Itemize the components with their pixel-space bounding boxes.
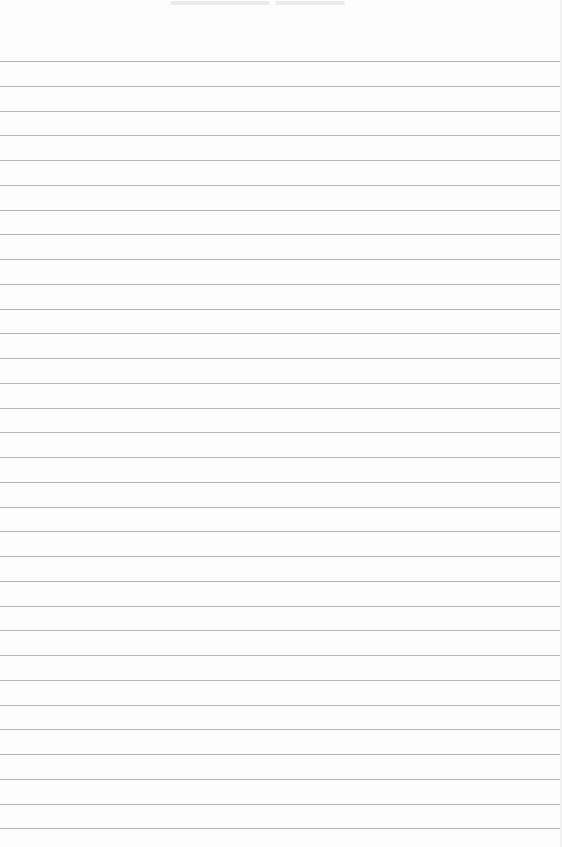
ruled-line: [0, 556, 562, 557]
ruled-line: [0, 705, 562, 706]
ruled-line: [0, 754, 562, 755]
ruled-line: [0, 531, 562, 532]
faint-header-marks: [0, 0, 562, 8]
ruled-line: [0, 729, 562, 730]
faint-mark: [170, 1, 270, 5]
ruled-line: [0, 408, 562, 409]
ruled-line: [0, 185, 562, 186]
ruled-line: [0, 482, 562, 483]
ruled-line: [0, 655, 562, 656]
ruled-line: [0, 210, 562, 211]
ruled-line: [0, 507, 562, 508]
ruled-line: [0, 804, 562, 805]
ruled-line: [0, 284, 562, 285]
ruled-line: [0, 358, 562, 359]
ruled-line: [0, 309, 562, 310]
ruled-line: [0, 234, 562, 235]
ruled-line: [0, 432, 562, 433]
ruled-line: [0, 606, 562, 607]
ruled-line: [0, 160, 562, 161]
ruled-line: [0, 680, 562, 681]
ruled-line: [0, 135, 562, 136]
ruled-line: [0, 111, 562, 112]
ruled-line: [0, 630, 562, 631]
ruled-line: [0, 828, 562, 829]
ruled-line: [0, 581, 562, 582]
faint-mark: [275, 1, 345, 5]
ruled-line: [0, 457, 562, 458]
ruled-line: [0, 86, 562, 87]
ruled-line: [0, 61, 562, 62]
ruled-line: [0, 259, 562, 260]
ruled-line: [0, 333, 562, 334]
ruled-line: [0, 383, 562, 384]
ruled-line: [0, 779, 562, 780]
